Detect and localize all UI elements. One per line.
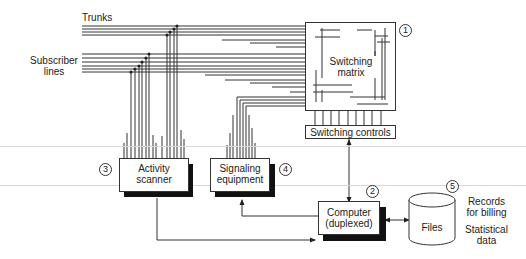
subscriber-lines-label: Subscriber lines <box>26 55 82 77</box>
records-for-billing-label: Records for billing <box>459 196 514 218</box>
marker-3: 3 <box>99 163 112 176</box>
signaling-equipment-block: Signaling equipment <box>210 158 270 192</box>
trunks-label: Trunks <box>82 12 112 23</box>
switching-system-diagram: Trunks Subscriber lines Switching matrix… <box>0 0 526 259</box>
statistical-data-label: Statistical data <box>459 224 514 246</box>
marker-4: 4 <box>279 163 292 176</box>
marker-5: 5 <box>446 180 459 193</box>
computer-label: Computer (duplexed) <box>319 207 379 229</box>
switching-controls-label: Switching controls <box>306 127 395 138</box>
subscriber-lines-label-line2: lines <box>26 66 82 77</box>
signaling-equipment-label: Signaling equipment <box>211 163 269 185</box>
computer-block: Computer (duplexed) <box>318 201 380 235</box>
marker-1: 1 <box>399 24 412 37</box>
scan-artifact <box>0 146 526 147</box>
switching-matrix-label: Switching matrix <box>326 56 376 78</box>
subscriber-lines-label-line1: Subscriber <box>26 55 82 66</box>
activity-scanner-block: Activity scanner <box>119 158 189 192</box>
activity-scanner-label: Activity scanner <box>120 163 188 185</box>
switching-controls-block: Switching controls <box>305 125 396 139</box>
switching-matrix-block: Switching matrix <box>305 22 396 111</box>
diagram-lines <box>0 0 526 259</box>
files-label: Files <box>409 222 455 233</box>
marker-2: 2 <box>366 185 379 198</box>
